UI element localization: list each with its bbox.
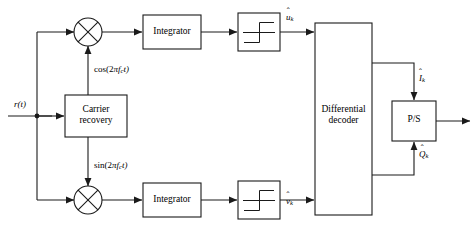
integrator-top-rect[interactable] xyxy=(143,15,201,49)
block-decision-device-bottom[interactable] xyxy=(238,181,314,219)
block-parallel-to-serial[interactable] xyxy=(392,101,470,141)
ps-rect[interactable] xyxy=(392,101,436,141)
carrier-recovery-rect[interactable] xyxy=(65,95,127,137)
wire-decoder-to-ps-q xyxy=(372,142,414,175)
wire-decoder-to-ps-i xyxy=(372,63,414,100)
block-decision-device-top[interactable] xyxy=(238,13,314,51)
block-carrier-recovery[interactable] xyxy=(65,46,127,186)
mixer-top[interactable] xyxy=(74,18,142,46)
mixer-bottom[interactable] xyxy=(74,186,142,214)
block-integrator-bottom[interactable] xyxy=(143,183,237,217)
integrator-bottom-rect[interactable] xyxy=(143,183,201,217)
input-wire-group xyxy=(8,32,74,200)
block-integrator-top[interactable] xyxy=(143,15,237,49)
diagram-canvas xyxy=(0,0,476,227)
block-diagram: Carrier recovery Integrator Integrator D… xyxy=(0,0,476,227)
differential-decoder-rect[interactable] xyxy=(315,23,372,215)
